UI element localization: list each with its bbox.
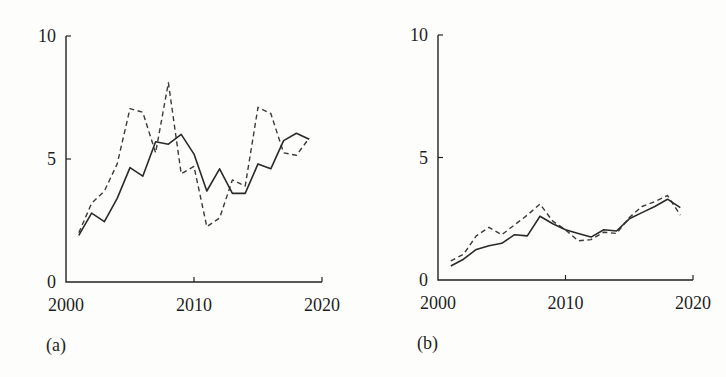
y-tick-label-5: 5 — [47, 149, 56, 169]
y-tick-label-5: 5 — [419, 148, 428, 168]
x-tick-label-2000: 2000 — [420, 293, 456, 313]
x-tick-label-2020: 2020 — [304, 295, 340, 315]
solid-series-line-a — [79, 133, 309, 235]
y-tick-label-0: 0 — [47, 272, 56, 292]
ticks-a — [66, 36, 322, 282]
axes-frame-b — [438, 35, 693, 280]
ticks-b — [438, 35, 693, 280]
y-tick-label-10: 10 — [410, 25, 428, 45]
x-tick-label-2020: 2020 — [675, 293, 711, 313]
solid-series-line-b — [451, 199, 681, 266]
figure: 0 5 10 2000 2010 2020 (a) 0 5 10 2000 20… — [0, 0, 726, 377]
panel-a: 0 5 10 2000 2010 2020 (a) — [38, 26, 340, 356]
x-tick-label-2010: 2010 — [176, 295, 212, 315]
dashed-series-line-a — [79, 83, 309, 233]
panel-label-b: (b) — [417, 333, 438, 354]
x-tick-label-2010: 2010 — [548, 293, 584, 313]
chart-canvas: 0 5 10 2000 2010 2020 (a) 0 5 10 2000 20… — [0, 0, 726, 377]
panel-label-a: (a) — [46, 335, 66, 356]
panel-b: 0 5 10 2000 2010 2020 (b) — [410, 25, 711, 354]
y-tick-label-0: 0 — [419, 270, 428, 290]
axes-frame-a — [66, 36, 322, 282]
dashed-series-line-b — [451, 196, 681, 261]
y-tick-label-10: 10 — [38, 26, 56, 46]
x-tick-label-2000: 2000 — [48, 295, 84, 315]
